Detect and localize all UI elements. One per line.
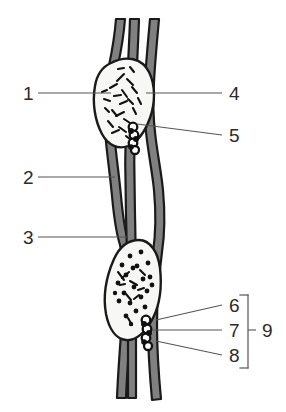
label-9: 9 [262, 320, 273, 341]
label-5: 5 [229, 125, 240, 146]
lymph-node-diagram: 1 2 3 4 5 6 7 8 9 [0, 0, 286, 412]
label-4: 4 [229, 83, 240, 104]
label-6: 6 [229, 295, 240, 316]
label-3: 3 [23, 227, 34, 248]
label-7: 7 [229, 320, 240, 341]
label-8: 8 [229, 345, 240, 366]
figure-background [0, 0, 286, 412]
label-1: 1 [23, 83, 34, 104]
label-2: 2 [23, 167, 34, 188]
